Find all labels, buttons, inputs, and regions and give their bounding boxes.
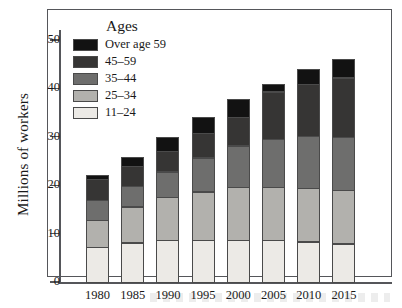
- legend-entries: Over age 5945–5935–4425–3411–24: [73, 36, 166, 121]
- legend-entry-3: 25–34: [73, 87, 166, 104]
- bar-1995: [192, 117, 215, 282]
- bar-segment-2005-25–34: [262, 187, 285, 240]
- bar-segment-1995-11–24: [192, 240, 215, 284]
- legend-title: Ages: [106, 17, 166, 35]
- legend-entry-0: Over age 59: [73, 36, 166, 53]
- legend-swatch-1: [73, 56, 98, 68]
- bar-segment-2010-11–24: [297, 242, 320, 284]
- bar-segment-1995-25–34: [192, 192, 215, 241]
- bar-2005: [262, 84, 285, 282]
- bar-segment-2000-Over-age-59: [227, 99, 250, 118]
- legend-label-2: 35–44: [105, 71, 136, 86]
- legend-swatch-3: [73, 90, 98, 102]
- y-tick-label-40: 40: [20, 81, 60, 94]
- bar-segment-2015-35–44: [332, 137, 355, 190]
- y-tick-label-30: 30: [20, 130, 60, 143]
- bar-segment-1990-Over-age-59: [156, 137, 179, 152]
- y-tick-label-10: 10: [20, 227, 60, 240]
- bar-1980: [86, 175, 109, 282]
- chart-figure: Millions of workers 01020304050 19801985…: [0, 0, 402, 308]
- bar-segment-1995-35–44: [192, 158, 215, 193]
- bar-segment-2015-45–59: [332, 78, 355, 139]
- y-tick-label-50: 50: [20, 33, 60, 46]
- legend-entry-1: 45–59: [73, 53, 166, 70]
- y-axis-line: [59, 30, 61, 283]
- bar-2015: [332, 59, 355, 282]
- bar-segment-2010-25–34: [297, 188, 320, 242]
- y-tick-label-20: 20: [20, 178, 60, 191]
- bar-segment-2015-Over-age-59: [332, 59, 355, 78]
- legend-label-3: 25–34: [105, 88, 136, 103]
- bar-2000: [227, 99, 250, 283]
- bar-segment-2000-45–59: [227, 117, 250, 147]
- bar-segment-2010-35–44: [297, 136, 320, 189]
- bar-segment-1985-45–59: [121, 166, 144, 187]
- bar-segment-2015-11–24: [332, 244, 355, 284]
- bar-segment-2005-45–59: [262, 92, 285, 140]
- bar-segment-2005-35–44: [262, 139, 285, 188]
- bar-2010: [297, 69, 320, 283]
- bar-1985: [121, 157, 144, 283]
- y-tick-label-0: 0: [20, 275, 60, 288]
- bar-segment-2010-Over-age-59: [297, 69, 320, 85]
- bar-segment-1985-11–24: [121, 243, 144, 284]
- bar-segment-1985-25–34: [121, 207, 144, 244]
- bar-segment-1990-45–59: [156, 151, 179, 173]
- bar-segment-1995-Over-age-59: [192, 117, 215, 134]
- legend-entry-4: 11–24: [73, 104, 166, 121]
- bar-segment-1990-25–34: [156, 197, 179, 240]
- bar-segment-1980-25–34: [86, 220, 109, 248]
- chart-legend: Ages Over age 5945–5935–4425–3411–24: [73, 17, 166, 121]
- legend-swatch-0: [73, 39, 98, 51]
- bar-segment-2000-11–24: [227, 240, 250, 284]
- bar-segment-1980-35–44: [86, 200, 109, 220]
- legend-entry-2: 35–44: [73, 70, 166, 87]
- bar-segment-1995-45–59: [192, 133, 215, 158]
- legend-label-0: Over age 59: [105, 37, 166, 52]
- bar-segment-1985-35–44: [121, 186, 144, 207]
- bar-segment-2005-11–24: [262, 240, 285, 284]
- legend-label-1: 45–59: [105, 54, 136, 69]
- legend-label-4: 11–24: [105, 105, 136, 120]
- bar-segment-1990-11–24: [156, 240, 179, 284]
- legend-swatch-4: [73, 107, 98, 119]
- bar-segment-2000-25–34: [227, 187, 250, 240]
- bar-1990: [156, 137, 179, 283]
- bar-segment-1980-11–24: [86, 247, 109, 283]
- bar-segment-2015-25–34: [332, 190, 355, 245]
- page-bleed-through: [150, 293, 390, 302]
- bar-segment-1980-45–59: [86, 179, 109, 201]
- bar-segment-1990-35–44: [156, 172, 179, 199]
- bar-segment-2000-35–44: [227, 146, 250, 189]
- bar-segment-2010-45–59: [297, 84, 320, 137]
- legend-swatch-2: [73, 73, 98, 85]
